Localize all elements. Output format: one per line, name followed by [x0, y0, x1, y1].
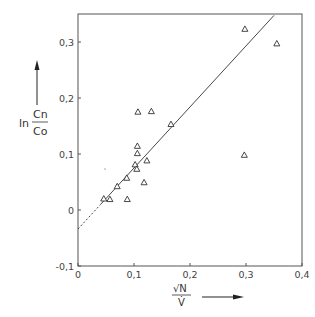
fit-line-dashed: [78, 205, 100, 229]
y-tick-label: 0,3: [59, 37, 74, 48]
x-label-numerator: √N: [173, 283, 187, 294]
stray-dot: [104, 168, 105, 169]
plot-frame: [78, 14, 302, 266]
triangle-marker-icon: [242, 26, 248, 31]
x-tick-label: 0: [75, 269, 81, 280]
triangle-marker-icon: [141, 179, 147, 184]
x-tick-label: 0,2: [182, 269, 197, 280]
x-arrow-head-icon: [233, 295, 244, 300]
y-tick-label: -0,1: [55, 261, 74, 272]
triangle-marker-icon: [144, 158, 150, 163]
plot-border: [78, 14, 302, 266]
y-tick-label: 0: [68, 205, 74, 216]
y-label-denominator: Co: [33, 125, 48, 138]
triangle-marker-icon: [274, 40, 280, 45]
x-tick-label: 0,3: [238, 269, 253, 280]
triangle-marker-icon: [124, 196, 130, 201]
fit-line: [78, 15, 274, 229]
y-arrow-head-icon: [35, 60, 40, 70]
y-label-numerator: Cn: [33, 108, 48, 121]
triangle-marker-icon: [135, 109, 141, 114]
triangle-marker-icon: [148, 108, 154, 113]
triangle-marker-icon: [134, 150, 140, 155]
triangle-marker-icon: [241, 152, 247, 157]
x-axis-label: √N V̇: [172, 283, 244, 308]
triangle-marker-icon: [134, 143, 140, 148]
axis-ticks: 00,10,20,30,4-0,100,10,20,3: [55, 37, 309, 280]
x-label-denominator: V̇: [178, 296, 185, 308]
x-tick-label: 0,4: [294, 269, 309, 280]
y-tick-label: 0,2: [59, 93, 74, 104]
y-label-ln: ln: [19, 117, 29, 130]
triangle-marker-icon: [168, 121, 174, 126]
y-axis-label: ln Cn Co: [19, 60, 48, 138]
x-tick-label: 0,1: [126, 269, 141, 280]
y-tick-label: 0,1: [59, 149, 74, 160]
scatter-chart: 00,10,20,30,4-0,100,10,20,3 ln Cn Co √N …: [0, 0, 315, 317]
